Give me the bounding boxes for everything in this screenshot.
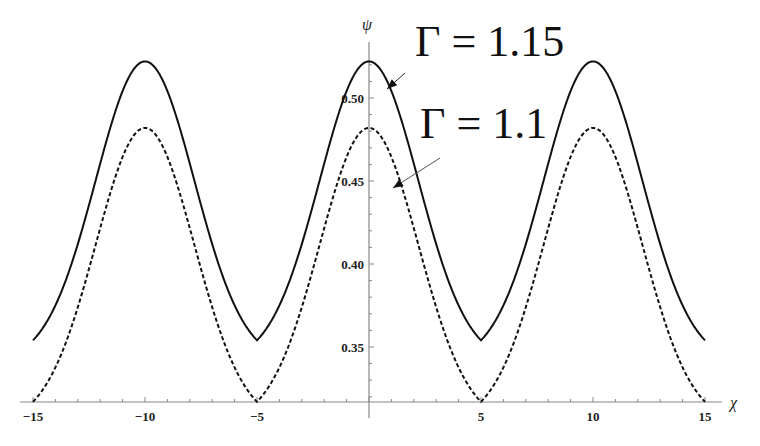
x-tick-label: −5 (250, 409, 264, 424)
x-tick-label: −10 (135, 409, 155, 424)
x-axis-label: χ (728, 394, 738, 412)
y-tick-label: 0.35 (341, 340, 364, 355)
axes: −15−10−551015 0.350.400.450.50 χ ψ (20, 16, 738, 424)
x-tick-labels: −15−10−551015 (23, 409, 712, 424)
y-tick-label: 0.45 (341, 174, 364, 189)
x-tick-label: 15 (699, 409, 713, 424)
annotation-gamma-1-15: Γ = 1.15 (415, 17, 564, 66)
annotation-gamma-1-1: Γ = 1.1 (420, 99, 547, 148)
chart: −15−10−551015 0.350.400.450.50 χ ψ Γ = 1… (0, 0, 760, 446)
x-tick-label: 10 (587, 409, 600, 424)
y-axis-label: ψ (362, 16, 373, 34)
x-tick-label: −15 (23, 409, 44, 424)
x-tick-label: 5 (478, 409, 485, 424)
y-tick-label: 0.40 (341, 257, 364, 272)
y-minor-ticks (369, 65, 374, 397)
x-minor-ticks (33, 397, 705, 402)
